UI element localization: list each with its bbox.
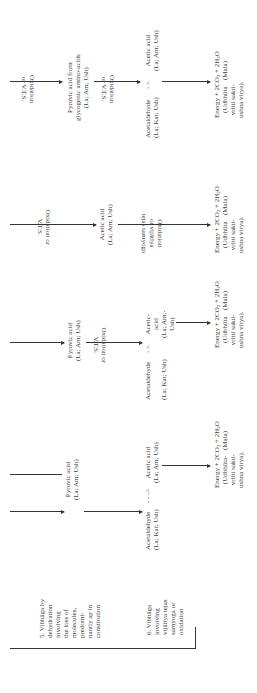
oxidation-label: Oxidation or V.T.S. (100, 75, 116, 103)
bracket-line-horizontal (195, 627, 196, 649)
mala-label: (Mala) (221, 196, 229, 215)
arrow-symbol: - > (144, 345, 152, 353)
pyruvic-acid-label: Pyruvic acid (La; Am; Ush) (64, 459, 80, 500)
pyruvic-acid-label: Pyruvic acid (La; Am; Ush) (66, 320, 82, 361)
rotated-diagram: 5. Vibhāga by dehydration involving the … (0, 0, 257, 693)
acetaldehyde-props: (La; Kat; Ush) (152, 509, 160, 550)
oxidation-label: Oxidation or V.T.S. (92, 327, 108, 363)
mala-label: (Mala) (221, 431, 229, 450)
bracket-line-vertical (10, 648, 196, 649)
arrow-symbol: - - -> (144, 489, 152, 503)
energy-label: Energy + 2CO2 + 2H2O (213, 281, 221, 348)
energy-label: Energy + 2CO2 + 2H2O (213, 186, 221, 253)
acetic-acid-label: Acetic acid (La; Am; Ush) (144, 30, 160, 71)
arrow (10, 474, 62, 475)
energy-note: (Udbhūta vritti sakti- ushna virya). (221, 81, 245, 118)
row-label-6: 6. Vibhāga involving vijātīya tejas samy… (145, 599, 185, 635)
acetic-acid-label: Acetic acid (La; Am; Ush) (98, 204, 114, 245)
arrow (162, 465, 210, 466)
oxidation-label: Oxidation or V.T.S. (20, 75, 36, 103)
arrow (84, 511, 142, 512)
pyruvic-acid-label: Pyruvic acid from glycogenic amino-acids… (66, 54, 90, 121)
acetaldehyde-label: Acetaldehyde (144, 512, 152, 550)
energy-label: Energy + 2CO2 + 2H2O (213, 421, 221, 488)
acetaldehyde-props: (La; Kat; Ush) (152, 97, 160, 138)
arrow (10, 224, 96, 225)
energy-note: (Udbhūta vritti sakti- ushna virya). (221, 311, 245, 348)
arrow (118, 224, 210, 225)
oxidation-label: Oxidation or V.T.S. (36, 209, 52, 245)
arrow (176, 322, 210, 323)
acetic-acid-label: Acetic acid (La; Am; Ush) (144, 442, 160, 483)
acetic-acid-label: Acetic- acid (La; Am;- Ush) (144, 310, 176, 338)
arrow (162, 81, 210, 82)
energy-note: (Udbhūta- vritti sakti- ushna virya). (221, 451, 245, 488)
acetaldehyde-label: Acetaldehyde (144, 100, 152, 138)
energy-note: (Udbhūta vritti sakti- ushna virya). (221, 216, 245, 253)
arrow (10, 81, 62, 82)
mala-label: (Mala) (221, 61, 229, 80)
oxidation-label: Oxidation or vijātīya tejas samyoga (140, 214, 164, 253)
arrow-symbol: - > (144, 81, 152, 89)
acetaldehyde-label: Acetaldehyde (144, 362, 152, 400)
arrow (10, 342, 64, 343)
energy-label: Energy + 2CO2 + 2H2O (213, 51, 221, 118)
arrow (10, 511, 64, 512)
row-label-5: 5. Vibhāga by dehydration involving the … (38, 599, 102, 638)
mala-label: (Mala) (221, 291, 229, 310)
acetaldehyde-props: (La; Kat; Ush) (160, 359, 168, 400)
